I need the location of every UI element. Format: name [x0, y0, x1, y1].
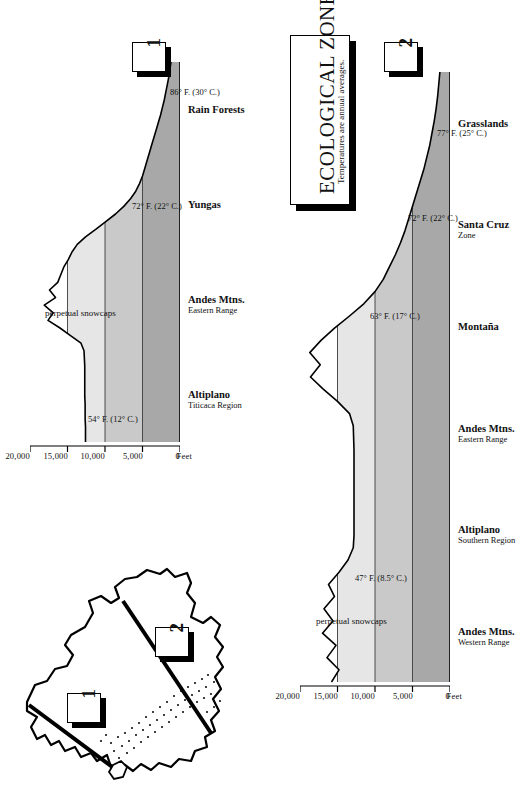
- transect-marker-1[interactable]: 1: [67, 693, 101, 723]
- panel-1-key-label: 1: [144, 38, 163, 48]
- temperature-annotation: 54° F. (12° C.): [88, 414, 138, 424]
- zone-label-group: Montaña: [458, 326, 499, 337]
- zone-sublabel: Southern Region: [458, 536, 515, 546]
- temperature-annotation: 47° F. (8.5° C.): [355, 573, 407, 583]
- zone-label-group: Rain Forests: [188, 110, 245, 121]
- zone-name: Andes Mtns.: [458, 422, 515, 433]
- zone-name: Montaña: [458, 321, 499, 332]
- country-outline: [27, 569, 223, 773]
- zone-name: Altiplano: [458, 524, 515, 535]
- zone-label-group: AltiplanoTiticaca Region: [188, 395, 242, 416]
- y-axis-tick-label: 20,000: [275, 691, 300, 701]
- temperature-annotation: 63° F. (17° C.): [370, 311, 420, 321]
- zone-sublabel: Titicaca Region: [188, 401, 242, 411]
- panel-1-key[interactable]: 1: [132, 42, 166, 72]
- temperature-annotation: 72° F. (22° C.): [408, 213, 458, 223]
- zone-label-group: Andes Mtns.Eastern Range: [188, 300, 245, 321]
- zone-sublabel: Zone: [458, 231, 509, 241]
- page-subtitle: Temperatures are annual averages.: [336, 60, 346, 184]
- y-axis-tick-label: 5,000: [122, 451, 142, 461]
- elevation-band: [413, 68, 451, 728]
- zone-label-group: Santa CruzZone: [458, 225, 509, 246]
- zone-label-group: Andes Mtns.Western Range: [458, 631, 515, 652]
- cross-section-panel-1: 20,00015,00010,0005,0000FeetAltiplanoTit…: [30, 58, 180, 488]
- map-svg: [15, 565, 265, 790]
- transect-marker-2-label: 2: [167, 623, 186, 633]
- zone-label-group: AltiplanoSouthern Region: [458, 530, 515, 551]
- zone-name: Santa Cruz: [458, 219, 509, 230]
- elevation-band: [143, 58, 181, 488]
- zone-label-group: Yungas: [188, 205, 221, 216]
- zone-name: Grasslands: [458, 117, 508, 128]
- y-axis-tick-label: 10,000: [350, 691, 375, 701]
- temperature-annotation: 72° F. (22° C.): [132, 201, 182, 211]
- zone-name: Altiplano: [188, 389, 242, 400]
- y-axis-tick-label: 20,000: [5, 451, 30, 461]
- panel-2-key-label: 2: [396, 38, 415, 48]
- elevation-band: [375, 68, 413, 728]
- zone-name: Andes Mtns.: [188, 294, 245, 305]
- title-plate: ECOLOGICAL ZONES Temperatures are annual…: [290, 35, 350, 205]
- y-axis-tick-label: 15,000: [313, 691, 338, 701]
- snowcap-annotation: perpetual snowcaps: [45, 308, 116, 318]
- zone-name: Andes Mtns.: [458, 626, 515, 637]
- y-axis-tick-label: 10,000: [80, 451, 105, 461]
- zone-label-group: Andes Mtns.Eastern Range: [458, 428, 515, 449]
- zone-name: Yungas: [188, 199, 221, 210]
- panel-2-key[interactable]: 2: [384, 42, 418, 72]
- zone-sublabel: Western Range: [458, 637, 515, 647]
- page-root: 20,00015,00010,0005,0000FeetAltiplanoTit…: [0, 0, 527, 790]
- y-axis-tick-label: 5,000: [392, 691, 412, 701]
- transect-marker-2[interactable]: 2: [155, 627, 189, 657]
- y-axis-caption: Feet: [177, 451, 192, 461]
- temperature-annotation: 86° F. (30° C.): [170, 87, 220, 97]
- transect-marker-1-label: 1: [79, 689, 98, 699]
- snowcap-annotation: perpetual snowcaps: [316, 616, 387, 626]
- zone-sublabel: Eastern Range: [458, 434, 515, 444]
- y-axis-caption: Feet: [447, 691, 462, 701]
- temperature-annotation: 77° F. (25° C.): [437, 128, 487, 138]
- bolivia-outline-map: 1 2: [15, 565, 265, 790]
- zone-name: Rain Forests: [188, 104, 245, 115]
- y-axis-tick-label: 15,000: [43, 451, 68, 461]
- zone-sublabel: Eastern Range: [188, 306, 245, 316]
